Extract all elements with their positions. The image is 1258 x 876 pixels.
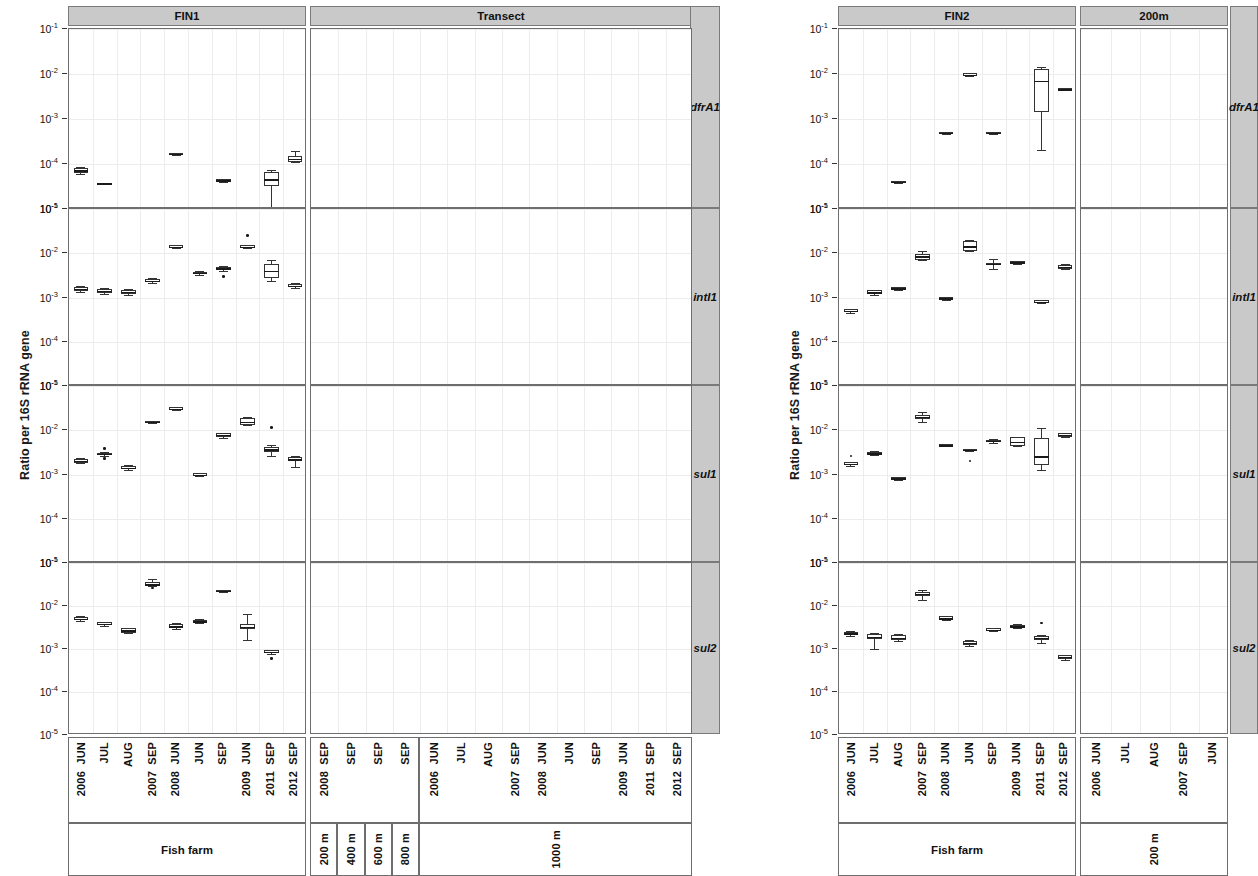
gridline-vertical [982, 29, 983, 207]
boxplot-outlier [151, 587, 154, 590]
gridline-horizontal [1081, 692, 1227, 693]
boxplot-median [963, 643, 978, 644]
gridline-vertical [164, 386, 165, 561]
boxplot-box [1034, 438, 1049, 465]
x-tick-month: AUG [122, 742, 134, 767]
boxplot-whisker-cap [989, 443, 998, 444]
gridline-vertical [140, 386, 141, 561]
fin2-xtick-3: SEP2007 [910, 738, 934, 822]
y-axis-tick [832, 341, 837, 342]
boxplot-whisker-cap [846, 636, 855, 637]
transect-far-xaxis-labels: JUN2006JULAUGSEP2007JUN2008JUNSEPJUN2009… [419, 737, 692, 823]
y-axis-tick [832, 648, 837, 649]
gridline-vertical [910, 209, 911, 384]
x-tick-year: 2012 [287, 771, 299, 796]
boxplot-whisker-cap [291, 162, 300, 163]
boxplot-median [216, 268, 231, 269]
x-tick-month: SEP [264, 742, 276, 765]
gridline-horizontal [69, 692, 305, 693]
y-axis-tick [62, 252, 67, 253]
boxplot-median [97, 183, 112, 184]
gridline-vertical [863, 563, 864, 733]
boxplot-whisker-cap [219, 182, 228, 183]
boxplot-median [121, 630, 136, 631]
gridline-horizontal [839, 119, 1075, 120]
y-axis-tick-label: 10-1 [22, 21, 58, 35]
transect-near-xtick-3: SEP [391, 738, 418, 822]
x-tick-year: 2006 [428, 771, 440, 796]
y-axis-tick [832, 208, 837, 209]
boxplot-whisker-cap [291, 151, 300, 152]
fin1-xtick-0: JUN2006 [69, 738, 93, 822]
gridline-horizontal [311, 386, 691, 387]
y-axis-tick-label: 10-4 [792, 511, 828, 525]
gridline-vertical [611, 386, 612, 561]
left-header-fin1: FIN1 [68, 6, 306, 26]
boxplot-median [121, 468, 136, 469]
gridline-horizontal [1081, 563, 1227, 564]
boxplot-whisker-cap [1013, 446, 1022, 447]
y-axis-tick [832, 429, 837, 430]
gridline-horizontal [311, 475, 691, 476]
gridline-vertical [164, 209, 165, 384]
group-label-text: 1000 m [550, 830, 562, 869]
gridline-vertical [1140, 386, 1141, 561]
x-tick-month: SEP [1057, 742, 1069, 765]
boxplot-whisker-cap [918, 422, 927, 423]
boxplot-median [264, 652, 279, 653]
gridline-horizontal [1081, 119, 1227, 120]
group-label-text: 800 m [399, 833, 411, 865]
boxplot-median [1010, 442, 1025, 443]
boxplot-median [1034, 302, 1049, 303]
gridline-vertical [259, 29, 260, 207]
gridline-vertical [1170, 563, 1171, 733]
y-axis-tick [62, 341, 67, 342]
boxplot-whisker-cap [148, 283, 157, 284]
right-row-label-sul1: sul1 [1230, 385, 1258, 562]
x-tick-month: SEP [916, 742, 928, 765]
gridline-vertical [283, 386, 284, 561]
x-tick-month: SEP [399, 742, 411, 765]
fin1-xtick-8: SEP2011 [258, 738, 282, 822]
y-axis-tick [62, 163, 67, 164]
fin1-xtick-4: JUN2008 [163, 738, 187, 822]
gridline-horizontal [311, 209, 691, 210]
fin1-xtick-3: SEP2007 [140, 738, 164, 822]
boxplot-whisker-cap [267, 170, 276, 171]
boxplot-median [891, 478, 906, 479]
gridline-vertical [1199, 29, 1200, 207]
plot-cell-L-1-sul1 [310, 385, 692, 562]
gridline-vertical [164, 29, 165, 207]
gridline-vertical [1111, 563, 1112, 733]
x-tick-year: 2008 [536, 771, 548, 796]
y-axis-tick-label: 10-3 [22, 467, 58, 481]
gridline-vertical [393, 209, 394, 384]
gridline-vertical [366, 563, 367, 733]
boxplot-median [97, 624, 112, 625]
gridline-vertical [638, 563, 639, 733]
boxplot-median [1010, 262, 1025, 263]
gridline-vertical [958, 563, 959, 733]
gridline-horizontal [311, 430, 691, 431]
transect-far-xtick-0: JUN2006 [420, 738, 447, 822]
y-axis-tick [832, 385, 837, 386]
y-axis-tick [62, 429, 67, 430]
boxplot-median [97, 291, 112, 292]
gridline-horizontal [1081, 386, 1227, 387]
y-axis-tick [832, 297, 837, 298]
x-tick-month: SEP [216, 742, 228, 765]
boxplot-whisker-cap [1061, 437, 1070, 438]
gridline-horizontal [69, 119, 305, 120]
plot-cell-L-0-sul1 [68, 385, 306, 562]
gridline-vertical [140, 563, 141, 733]
gridline-vertical [1140, 29, 1141, 207]
gridline-vertical [611, 29, 612, 207]
gridline-vertical [366, 29, 367, 207]
x-tick-month: JUN [536, 742, 548, 765]
gridline-vertical [188, 209, 189, 384]
m200-xtick-0: JUN2006 [1081, 738, 1110, 822]
boxplot-whisker-cap [148, 579, 157, 580]
gridline-vertical [283, 209, 284, 384]
transect-near-xtick-0: SEP2008 [311, 738, 338, 822]
gridline-horizontal [839, 253, 1075, 254]
